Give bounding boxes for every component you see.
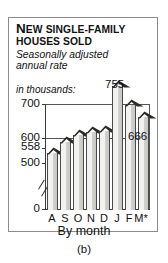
- bar-a: [47, 153, 58, 210]
- xtick-label-m: M*: [134, 212, 148, 224]
- plot-area: [45, 98, 149, 210]
- roof-icon-f: [125, 99, 144, 106]
- xtick-label-a: A: [45, 212, 59, 224]
- title-line1-words: single-family: [46, 24, 126, 35]
- title-initial: N: [16, 21, 26, 36]
- figure: New single-family houses sold Seasonally…: [0, 0, 168, 263]
- ytick-label-500: 500: [11, 156, 40, 168]
- chart-subtitle: Seasonally adjustedannual rate: [16, 49, 154, 72]
- y-axis-units-label: in thousands:: [16, 84, 76, 95]
- bar-f: [125, 105, 136, 210]
- data-label-755: 755: [105, 78, 124, 90]
- chart-title: New single-family houses sold: [16, 23, 152, 48]
- chart-subtitle-line-1: Seasonally adjusted: [16, 49, 108, 60]
- chart-panel: New single-family houses sold Seasonally…: [8, 17, 158, 232]
- grid-right-edge-upper: [149, 104, 150, 139]
- bar-n: [86, 132, 97, 210]
- bar-d: [99, 131, 110, 210]
- xtick-label-d: D: [97, 212, 111, 224]
- axis-break-slash-1: [38, 180, 45, 190]
- ytick-label-0: 0: [11, 202, 40, 214]
- x-axis-title: By month: [9, 224, 159, 238]
- xtick-label-s: S: [58, 212, 72, 224]
- ytick-label-700: 700: [11, 97, 40, 109]
- grid-right-edge-lower: [149, 138, 150, 210]
- xtick-label-o: O: [71, 212, 85, 224]
- chart-subtitle-line-2: annual rate: [16, 60, 68, 71]
- title-lead-rest: ew: [26, 24, 43, 35]
- roof-icon-m: [138, 111, 157, 118]
- figure-caption: (b): [0, 243, 168, 255]
- xtick-label-n: N: [84, 212, 98, 224]
- data-label-558: 558: [21, 140, 40, 152]
- bar-j: [112, 86, 123, 210]
- title-line2: houses sold: [16, 36, 152, 48]
- data-label-666: 666: [128, 130, 147, 142]
- bar-o: [73, 135, 84, 210]
- bar-s: [60, 142, 71, 210]
